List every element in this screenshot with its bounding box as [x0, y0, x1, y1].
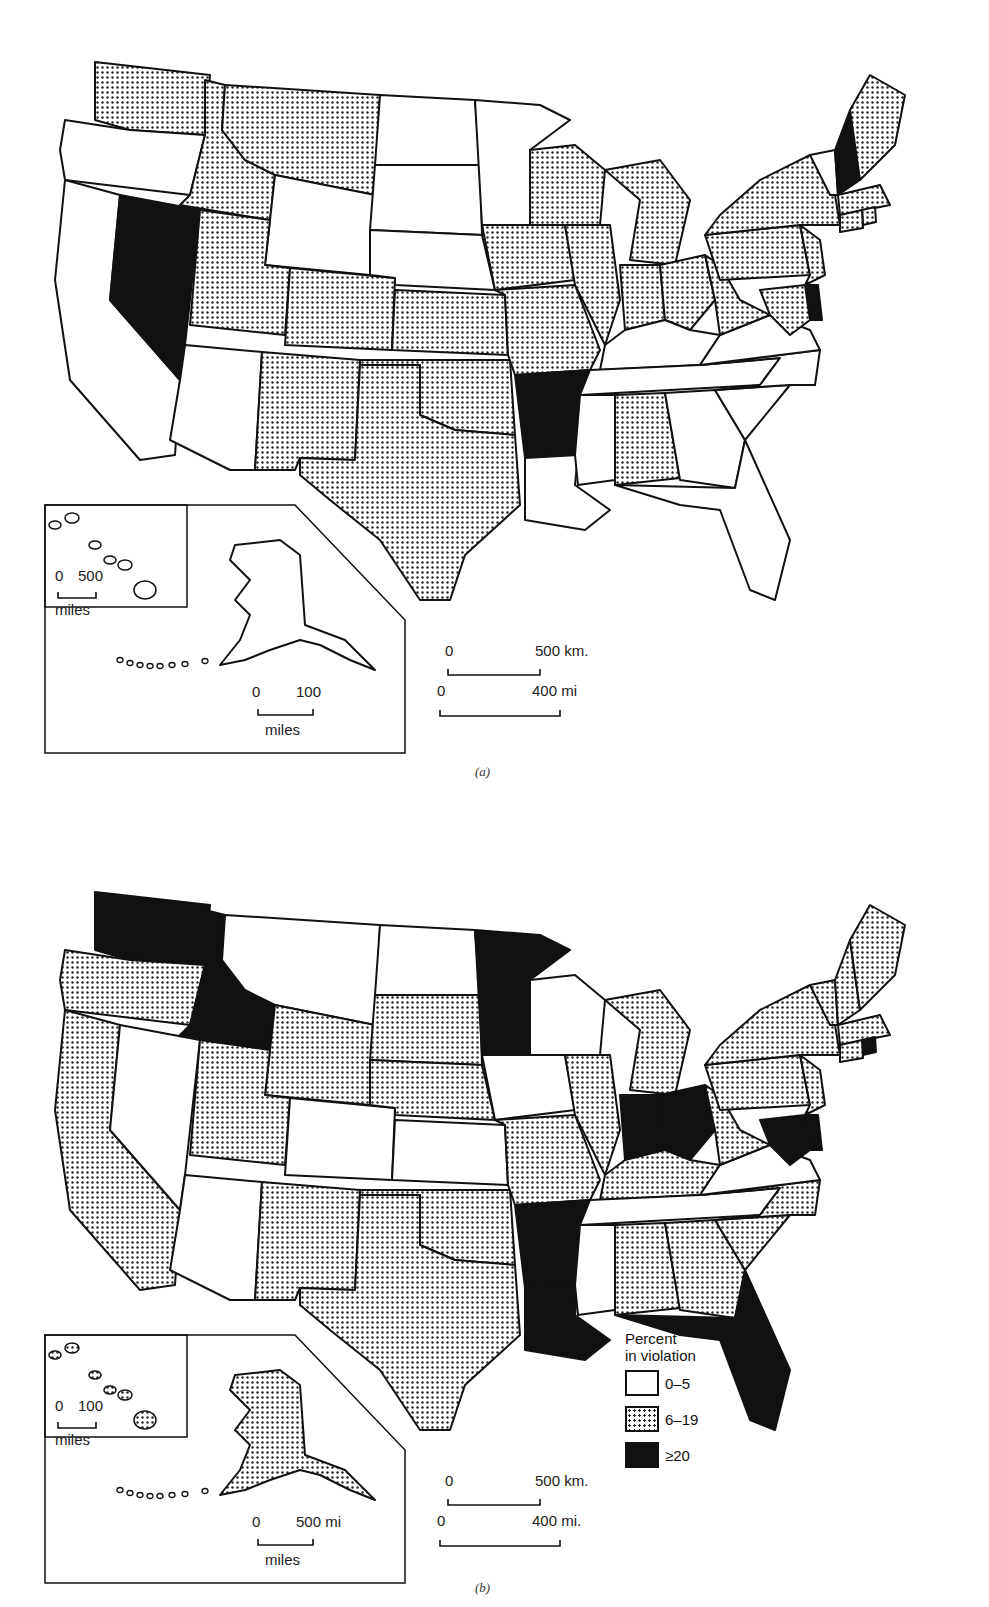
state-hi	[89, 541, 101, 549]
state-mi	[605, 990, 690, 1095]
alaska-scale-end: 100	[296, 683, 321, 700]
alaska-scale-zero: 0	[252, 1513, 260, 1530]
state-ia	[482, 225, 575, 290]
state-ak	[220, 540, 375, 670]
state-hi	[118, 1390, 132, 1400]
map-panel-b: 0500 km.0400 mi.0500 mimiles0100miles Pe…	[0, 800, 989, 1607]
state-ak	[220, 1370, 375, 1500]
state-wa	[95, 62, 210, 135]
state-nm	[255, 1182, 360, 1300]
legend-item-mid: 6–19	[625, 1406, 698, 1432]
state-nd	[375, 95, 480, 165]
aleutian-island	[202, 1489, 208, 1494]
scale-km-zero: 0	[445, 1472, 453, 1489]
scale-bar-mi	[440, 710, 560, 716]
scale-mi-end: 400 mi.	[532, 1512, 581, 1529]
caption-a: (a)	[475, 764, 490, 780]
state-ct	[840, 1040, 863, 1062]
state-in	[620, 265, 665, 330]
state-ks	[392, 290, 508, 355]
state-in	[620, 1095, 665, 1160]
aleutian-island	[202, 659, 208, 664]
us-map-a: 0500 km.0400 mi0100miles0500miles	[0, 0, 989, 800]
aleutian-island	[147, 664, 153, 669]
state-ct	[840, 210, 863, 232]
scale-bar-mi	[440, 1540, 560, 1546]
state-me	[850, 75, 905, 180]
legend-item-high: ≥20	[625, 1442, 698, 1468]
aleutian-island	[182, 1492, 188, 1497]
aleutian-island	[157, 664, 163, 669]
state-sd	[370, 995, 482, 1065]
aleutian-island	[127, 1491, 133, 1496]
us-map-b: 0500 km.0400 mi.0500 mimiles0100miles	[0, 800, 989, 1607]
scale-bar-km	[448, 669, 540, 675]
hawaii-scale-bar	[58, 1422, 96, 1428]
alaska-scale-unit: miles	[265, 721, 300, 738]
state-ms	[575, 395, 615, 485]
alaska-scale-bar	[258, 1539, 313, 1545]
hawaii-scale-zero: 0	[55, 1397, 63, 1414]
hawaii-scale-bar	[58, 592, 96, 598]
state-mi	[605, 160, 690, 265]
state-nd	[375, 925, 480, 995]
scale-km-end: 500 km.	[535, 1472, 588, 1489]
map-panel-a: 0500 km.0400 mi0100miles0500miles (a)	[0, 0, 989, 800]
hawaii-scale-unit: miles	[55, 601, 90, 618]
aleutian-island	[137, 1493, 143, 1498]
aleutian-island	[127, 661, 133, 666]
legend-swatch-low	[625, 1370, 659, 1396]
legend-label-low: 0–5	[665, 1375, 690, 1392]
legend: Percent in violation 0–5 6–19 ≥20	[625, 1330, 698, 1478]
state-az	[170, 1175, 262, 1300]
aleutian-island	[147, 1494, 153, 1499]
caption-b: (b)	[475, 1580, 490, 1596]
state-hi	[65, 513, 79, 523]
hawaii-scale-end: 100	[78, 1397, 103, 1414]
state-hi	[104, 1386, 116, 1394]
legend-label-mid: 6–19	[665, 1411, 698, 1428]
hawaii-scale-zero: 0	[55, 567, 63, 584]
alaska-scale-bar	[258, 709, 313, 715]
state-co	[285, 268, 395, 350]
hawaii-scale-unit: miles	[55, 1431, 90, 1448]
aleutian-island	[137, 663, 143, 668]
state-ks	[392, 1120, 508, 1185]
aleutian-island	[157, 1494, 163, 1499]
legend-title: Percent in violation	[625, 1330, 698, 1364]
scale-mi-end: 400 mi	[532, 682, 577, 699]
state-wa	[95, 892, 210, 965]
state-hi	[65, 1343, 79, 1353]
legend-item-low: 0–5	[625, 1370, 698, 1396]
aleutian-island	[169, 1493, 175, 1498]
state-ms	[575, 1225, 615, 1315]
legend-swatch-mid	[625, 1406, 659, 1432]
state-hi	[49, 521, 61, 529]
state-hi	[118, 560, 132, 570]
state-co	[285, 1098, 395, 1180]
aleutian-island	[117, 658, 123, 663]
state-hi	[134, 581, 156, 599]
aleutian-island	[169, 663, 175, 668]
scale-mi-zero: 0	[437, 1512, 445, 1529]
alaska-scale-end: 500 mi	[296, 1513, 341, 1530]
state-nm	[255, 352, 360, 470]
state-wi	[530, 975, 605, 1055]
scale-km-zero: 0	[445, 642, 453, 659]
alaska-scale-unit: miles	[265, 1551, 300, 1568]
alaska-scale-zero: 0	[252, 683, 260, 700]
state-wi	[530, 145, 605, 225]
state-me	[850, 905, 905, 1010]
state-ri	[862, 1037, 876, 1055]
hawaii-scale-end: 500	[78, 567, 103, 584]
state-hi	[49, 1351, 61, 1359]
legend-swatch-high	[625, 1442, 659, 1468]
state-sd	[370, 165, 482, 235]
legend-label-high: ≥20	[665, 1447, 690, 1464]
legend-title-line1: Percent	[625, 1330, 698, 1347]
state-ia	[482, 1055, 575, 1120]
scale-km-end: 500 km.	[535, 642, 588, 659]
aleutian-island	[117, 1488, 123, 1493]
scale-bar-km	[448, 1499, 540, 1505]
aleutian-island	[182, 662, 188, 667]
